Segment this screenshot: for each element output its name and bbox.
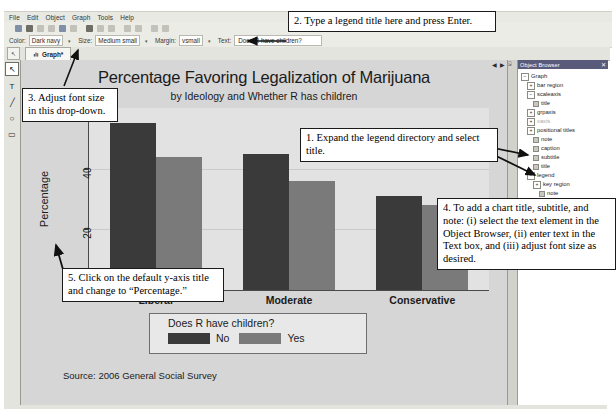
legend[interactable]: Does R have children? NoYes xyxy=(149,313,367,354)
bar[interactable] xyxy=(243,154,289,291)
graph-icon xyxy=(33,51,39,57)
object-browser-node-label: bar region xyxy=(537,81,563,90)
bar[interactable] xyxy=(110,123,156,290)
size-option-group: Size: Medium small ▾ xyxy=(78,35,155,46)
object-browser-node-label: grpaxis xyxy=(537,108,556,117)
tab-graph[interactable]: Graph* xyxy=(25,47,71,60)
text-tool-icon[interactable]: T xyxy=(6,80,18,92)
object-browser-node[interactable]: note xyxy=(521,135,608,144)
object-browser-node[interactable]: +grpaxis xyxy=(521,108,608,117)
expand-icon[interactable]: + xyxy=(533,181,541,189)
margin-label: Margin: xyxy=(155,37,176,44)
rectangle-tool-icon[interactable]: ▭ xyxy=(6,128,18,140)
properties-bar: Color: Dark navy ▾ Size: Medium small ▾ … xyxy=(4,34,612,48)
object-browser-node[interactable]: +bar region xyxy=(521,81,608,90)
tree-leaf-icon xyxy=(539,191,545,197)
legend-key[interactable]: No xyxy=(168,332,229,344)
play-icon[interactable] xyxy=(161,24,170,33)
save-icon[interactable] xyxy=(14,24,23,33)
tree-leaf-icon xyxy=(533,101,539,107)
object-browser-title: Object Browser xyxy=(520,62,560,68)
nav-next-icon[interactable]: ▶ xyxy=(500,61,505,68)
collapse-icon[interactable]: − xyxy=(527,172,535,180)
legend-title-text-input[interactable]: Does R have children? xyxy=(234,35,322,46)
chart-note[interactable]: Source: 2006 General Social Survey xyxy=(63,370,217,381)
object-browser-node[interactable]: +xaxis xyxy=(521,117,608,126)
color-chevron-down-icon[interactable]: ▾ xyxy=(68,38,71,44)
graph-tab-strip: ↖ Graph* xyxy=(4,47,610,61)
color-label: Color: xyxy=(9,37,26,44)
chart-title[interactable]: Percentage Favoring Legalization of Mari… xyxy=(21,68,507,87)
object-browser-node-label: note xyxy=(541,135,552,144)
redo-icon[interactable] xyxy=(107,24,116,33)
collapse-icon[interactable]: − xyxy=(521,73,529,81)
font-size-dropdown[interactable]: Medium small xyxy=(95,35,140,46)
legend-swatch xyxy=(239,333,281,344)
bar[interactable] xyxy=(376,196,422,290)
expand-icon[interactable]: + xyxy=(527,82,535,90)
margin-chevron-down-icon[interactable]: ▾ xyxy=(208,38,211,44)
object-browser-node[interactable]: +key region xyxy=(521,180,608,189)
size-chevron-down-icon[interactable]: ▾ xyxy=(145,38,148,44)
bar[interactable] xyxy=(289,181,335,290)
object-browser-node-label: title xyxy=(541,162,550,171)
legend-title[interactable]: Does R have children? xyxy=(150,317,366,329)
text-label: Text: xyxy=(218,37,231,44)
tab-graph-label: Graph* xyxy=(42,51,63,58)
tree-leaf-icon xyxy=(533,164,539,170)
legend-key-label: No xyxy=(216,332,229,344)
color-dropdown[interactable]: Dark navy xyxy=(29,35,63,46)
pin-icon[interactable]: ⍄ xyxy=(508,61,512,68)
expand-icon[interactable]: + xyxy=(527,127,535,135)
object-browser-node-label: caption xyxy=(541,144,560,153)
x-axis-category-label: Conservative xyxy=(356,294,489,308)
object-browser-node-label: title xyxy=(541,99,550,108)
object-browser-node[interactable]: title xyxy=(521,99,608,108)
object-browser-node-label: key region xyxy=(543,180,570,189)
copy-icon[interactable] xyxy=(36,24,45,33)
nav-prev-icon[interactable]: ◀ xyxy=(492,61,497,68)
legend-keys: NoYes xyxy=(150,332,366,344)
object-browser-node-label: scaleaxis xyxy=(537,90,561,99)
legend-key-label: Yes xyxy=(287,332,304,344)
pointer-tool-icon[interactable]: ↖ xyxy=(5,62,19,76)
callout-2: 2. Type a legend title here and press En… xyxy=(288,11,496,32)
x-axis-category-label: Moderate xyxy=(222,294,355,308)
paste-icon[interactable] xyxy=(47,24,56,33)
size-label: Size: xyxy=(78,37,92,44)
print-icon[interactable] xyxy=(25,24,34,33)
grid-icon[interactable] xyxy=(58,24,67,33)
object-browser-node[interactable]: caption xyxy=(521,144,608,153)
object-browser-node[interactable]: subtitle xyxy=(521,153,608,162)
legend-swatch xyxy=(168,333,210,344)
snap-icon[interactable] xyxy=(69,24,78,33)
object-browser-node[interactable]: −scaleaxis xyxy=(521,90,608,99)
object-browser-node[interactable]: +positional titles xyxy=(521,126,608,135)
pointer-tool-button[interactable]: ↖ xyxy=(7,47,20,60)
expand-icon[interactable]: + xyxy=(527,109,535,117)
object-browser-node[interactable]: −legend xyxy=(521,171,608,180)
expand-icon[interactable]: + xyxy=(527,118,535,126)
callout-1: 1. Expand the legend directory and selec… xyxy=(300,128,498,162)
pointer-icon[interactable] xyxy=(85,24,94,33)
callout-4: 4. To add a chart title, subtitle, and n… xyxy=(437,198,616,270)
tool-palette: ↖ T ╱ ○ ▭ xyxy=(4,60,21,407)
close-icon[interactable]: ✕ xyxy=(601,62,606,68)
object-browser-node[interactable]: title xyxy=(521,162,608,171)
record-icon[interactable] xyxy=(150,24,159,33)
collapse-icon[interactable]: − xyxy=(527,91,535,99)
line-tool-icon[interactable]: ╱ xyxy=(6,96,18,108)
tree-leaf-icon xyxy=(533,137,539,143)
object-browser-node-label: positional titles xyxy=(537,126,575,135)
ellipse-tool-icon[interactable]: ○ xyxy=(6,112,18,124)
y-axis-title-wrap: Percentage xyxy=(37,108,51,290)
y-axis-title[interactable]: Percentage xyxy=(38,171,50,227)
add-line-icon[interactable] xyxy=(134,24,143,33)
object-browser-node[interactable]: note xyxy=(521,189,608,198)
add-text-icon[interactable] xyxy=(123,24,132,33)
object-browser-header: ◀ ▶ ⍄ Object Browser ✕ xyxy=(518,60,608,69)
object-browser-node[interactable]: −Graph xyxy=(521,72,608,81)
margin-dropdown[interactable]: vsmall xyxy=(179,35,203,46)
legend-key[interactable]: Yes xyxy=(239,332,304,344)
undo-icon[interactable] xyxy=(96,24,105,33)
